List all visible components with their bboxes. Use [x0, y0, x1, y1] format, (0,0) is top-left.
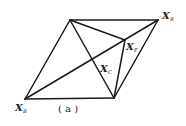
edge-left [25, 20, 70, 99]
svg-text:R: R [169, 16, 174, 22]
label-xc: X C [99, 63, 112, 75]
svg-text:F: F [133, 47, 138, 53]
figure-caption: ( a ) [58, 103, 78, 114]
edge-tl-xf [70, 20, 125, 40]
svg-text:C: C [108, 69, 112, 75]
label-xr: X R [161, 10, 174, 22]
edge-bottom [25, 98, 114, 99]
label-xb: X B [14, 102, 27, 114]
label-xf: X F [125, 41, 138, 53]
geometry-diagram: X R X F X C X B ( a ) [0, 0, 186, 126]
diagonal-tl-br [70, 20, 114, 98]
edge-right [114, 20, 158, 98]
svg-text:B: B [22, 108, 27, 114]
